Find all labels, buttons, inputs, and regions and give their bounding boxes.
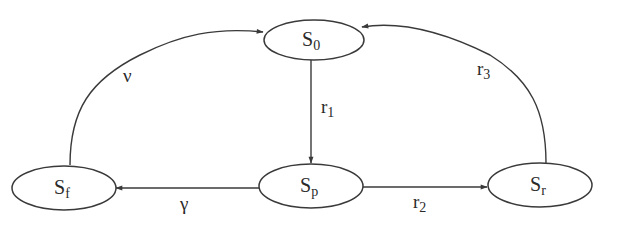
node-sf-label: Sf	[54, 177, 70, 201]
edge-label-r1: r1	[321, 97, 334, 120]
node-sr-base: S	[530, 173, 541, 195]
edge-label-gamma-base: γ	[180, 193, 188, 214]
node-sr-label: Sr	[530, 174, 546, 198]
edge-sr-to-s0	[362, 25, 546, 163]
node-sr-sub: r	[541, 183, 546, 198]
edge-label-r2-sub: 2	[419, 200, 426, 215]
node-sp-label: Sp	[300, 175, 318, 199]
node-s0-base: S	[302, 28, 313, 50]
edge-label-r3-sub: 3	[483, 67, 490, 82]
edge-label-r1-sub: 1	[327, 105, 334, 120]
node-sf-base: S	[54, 176, 65, 198]
edge-sf-to-s0	[70, 31, 263, 165]
edge-label-nu: ν	[123, 66, 132, 85]
node-s0-label: S0	[302, 29, 320, 53]
edge-label-gamma: γ	[180, 194, 188, 213]
edge-label-r3: r3	[477, 59, 490, 82]
edge-label-nu-base: ν	[123, 65, 132, 86]
node-sp-base: S	[300, 174, 311, 196]
node-sf-sub: f	[65, 186, 70, 201]
edge-label-r2: r2	[413, 192, 426, 215]
node-s0-sub: 0	[313, 38, 320, 53]
node-sp-sub: p	[311, 184, 318, 199]
